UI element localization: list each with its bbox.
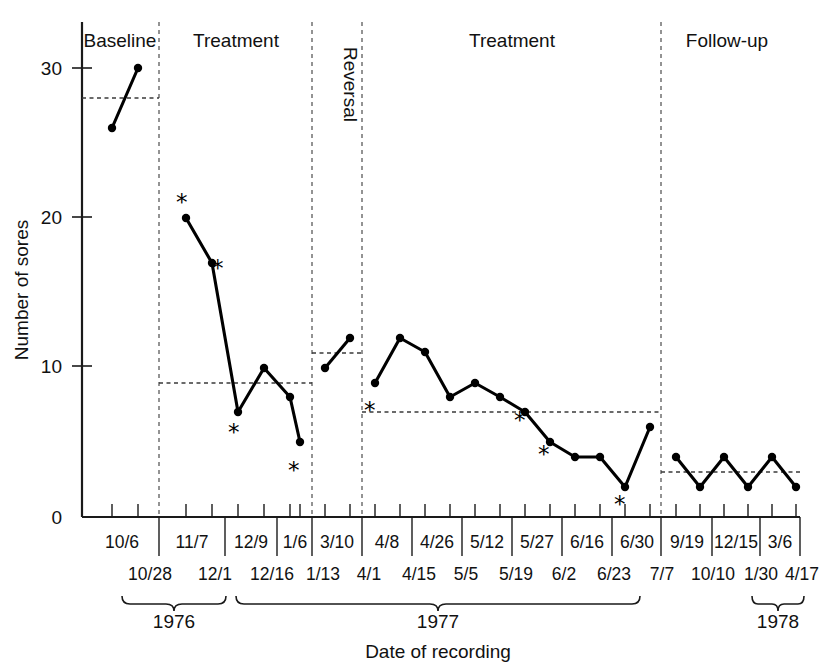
x-date-label-upper-7: 5/12 — [470, 532, 504, 552]
x-date-labels-lower: 10/28 12/1 12/16 1/13 4/1 4/15 5/5 5/19 … — [128, 564, 819, 584]
data-point — [646, 423, 654, 431]
phase-labels: Baseline Treatment Reversal Treatment Fo… — [84, 30, 769, 122]
chart-figure: 30 20 10 0 Number of sores Baseline Trea… — [0, 0, 823, 666]
y-tick-label-30: 30 — [41, 58, 62, 79]
phase-label-treatment-2: Treatment — [469, 30, 556, 51]
data-point — [346, 334, 354, 342]
y-tick-label-10: 10 — [41, 356, 62, 377]
x-date-labels-upper: 10/6 11/7 12/9 1/6 3/10 4/8 4/26 5/12 5/… — [105, 532, 792, 552]
asterisk-marker: * — [614, 491, 626, 517]
data-point — [234, 408, 242, 416]
x-date-label-lower-2: 12/16 — [250, 564, 294, 584]
asterisk-marker: * — [364, 397, 376, 423]
data-point — [286, 393, 294, 401]
x-date-label-lower-11: 10/10 — [691, 564, 735, 584]
x-date-label-upper-3: 1/6 — [283, 532, 307, 552]
phase-label-baseline: Baseline — [84, 30, 157, 51]
y-tick-label-20: 20 — [41, 207, 62, 228]
phase-label-reversal: Reversal — [340, 47, 361, 122]
x-date-label-upper-6: 4/26 — [420, 532, 454, 552]
asterisk-annotations: * * * * * * * * — [176, 189, 626, 517]
data-point — [446, 393, 454, 401]
data-point — [421, 348, 429, 356]
data-point — [792, 483, 800, 491]
data-point — [471, 379, 479, 387]
data-point — [108, 124, 116, 132]
data-point — [321, 364, 329, 372]
y-tick-labels: 30 20 10 0 — [41, 58, 62, 528]
chart-svg: 30 20 10 0 Number of sores Baseline Trea… — [0, 0, 823, 666]
x-date-label-lower-3: 1/13 — [306, 564, 340, 584]
x-date-label-lower-10: 7/7 — [650, 564, 674, 584]
brace-1977 — [236, 596, 640, 611]
data-point — [621, 483, 629, 491]
x-date-label-upper-12: 12/15 — [714, 532, 758, 552]
data-point — [396, 334, 404, 342]
data-point — [134, 64, 142, 72]
x-date-label-lower-4: 4/1 — [357, 564, 381, 584]
x-date-label-upper-4: 3/10 — [320, 532, 354, 552]
x-date-label-upper-2: 12/9 — [234, 532, 268, 552]
data-point — [571, 453, 579, 461]
x-date-label-upper-13: 3/6 — [768, 532, 792, 552]
data-point — [768, 453, 776, 461]
data-series-treatment-1 — [182, 214, 304, 446]
x-date-label-lower-13: 4/17 — [785, 564, 819, 584]
asterisk-marker: * — [288, 457, 300, 483]
brace-1976 — [122, 596, 226, 611]
year-label-1976: 1976 — [153, 611, 195, 632]
x-date-label-upper-0: 10/6 — [105, 532, 139, 552]
x-date-label-upper-9: 6/16 — [570, 532, 604, 552]
x-date-label-lower-9: 6/23 — [597, 564, 631, 584]
phase-mean-lines — [82, 98, 800, 472]
asterisk-marker: * — [514, 407, 526, 433]
axis-group — [82, 22, 800, 517]
phase-label-treatment-1: Treatment — [193, 30, 280, 51]
year-label-1977: 1977 — [417, 611, 459, 632]
x-date-label-upper-5: 4/8 — [375, 532, 399, 552]
data-series-reversal — [321, 334, 354, 372]
y-axis-title: Number of sores — [11, 220, 32, 360]
asterisk-marker: * — [212, 255, 224, 281]
year-label-1978: 1978 — [757, 611, 799, 632]
x-axis-title: Date of recording — [365, 641, 511, 662]
x-date-label-lower-5: 4/15 — [402, 564, 436, 584]
data-point — [371, 379, 379, 387]
asterisk-marker: * — [538, 441, 550, 467]
x-date-label-lower-0: 10/28 — [128, 564, 172, 584]
year-labels: 1976 1977 1978 — [153, 611, 799, 632]
y-tick-label-0: 0 — [51, 507, 62, 528]
asterisk-marker: * — [228, 419, 240, 445]
x-date-label-upper-8: 5/27 — [520, 532, 554, 552]
data-point — [720, 453, 728, 461]
x-ticks — [112, 504, 796, 517]
data-point — [296, 438, 304, 446]
data-point — [744, 483, 752, 491]
brace-1978 — [752, 596, 804, 611]
data-point — [596, 453, 604, 461]
year-braces — [122, 596, 804, 611]
data-line-treatment-1 — [186, 218, 300, 442]
x-date-label-upper-10: 6/30 — [620, 532, 654, 552]
phase-label-followup: Follow-up — [686, 30, 768, 51]
x-date-label-lower-8: 6/2 — [552, 564, 576, 584]
x-date-label-upper-1: 11/7 — [176, 532, 209, 552]
x-date-label-lower-6: 5/5 — [454, 564, 478, 584]
x-date-label-lower-1: 12/1 — [198, 564, 232, 584]
data-point — [672, 453, 680, 461]
x-date-label-upper-11: 9/19 — [670, 532, 704, 552]
data-point — [182, 214, 190, 222]
data-point — [696, 483, 704, 491]
data-point — [496, 393, 504, 401]
data-point — [260, 364, 268, 372]
x-date-label-lower-7: 5/19 — [499, 564, 533, 584]
x-date-label-lower-12: 1/30 — [744, 564, 778, 584]
asterisk-marker: * — [176, 189, 188, 215]
